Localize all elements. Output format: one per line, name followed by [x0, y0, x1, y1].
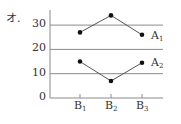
- data-point-a2-b1: [78, 59, 83, 64]
- series-label-a2: A2: [151, 56, 163, 70]
- y-tick-30: 30: [24, 17, 46, 30]
- x-tick-b1: B1: [74, 99, 87, 113]
- series-label-a1: A1: [151, 29, 163, 43]
- data-point-a1-b1: [78, 30, 83, 35]
- x-tick-b3: B3: [136, 99, 149, 113]
- data-point-a2-b3: [140, 60, 145, 65]
- data-point-a1-b2: [109, 13, 114, 18]
- series-lines: [78, 13, 145, 83]
- x-tick-b2-sub: 2: [113, 105, 117, 113]
- y-tick-10: 10: [24, 66, 46, 79]
- y-tick-0: 0: [24, 90, 46, 103]
- data-point-a2-b2: [109, 79, 114, 84]
- y-tick-20: 20: [24, 41, 46, 54]
- x-tick-b2-main: B: [105, 99, 113, 112]
- chart-title: オ.: [6, 9, 21, 25]
- axes: [50, 10, 163, 98]
- gridlines: [50, 25, 163, 74]
- x-tick-b2: B2: [105, 99, 118, 113]
- series-label-a1-main: A: [151, 29, 159, 42]
- x-tick-b3-sub: 3: [144, 105, 148, 113]
- series-label-a2-main: A: [151, 56, 159, 69]
- x-tick-b1-sub: 1: [82, 105, 86, 113]
- series-label-a1-sub: 1: [159, 35, 163, 43]
- series-line-a2: [80, 62, 142, 81]
- x-tick-b1-main: B: [74, 99, 82, 112]
- series-label-a2-sub: 2: [159, 62, 163, 70]
- data-point-a1-b3: [140, 33, 145, 38]
- x-tick-b3-main: B: [136, 99, 144, 112]
